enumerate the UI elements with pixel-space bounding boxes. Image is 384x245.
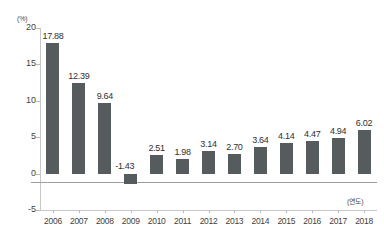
x-tick-mark [260, 210, 261, 213]
x-tick-label: 2018 [349, 216, 379, 226]
x-tick-mark [338, 210, 339, 213]
y-axis-unit-label: (%) [17, 15, 27, 22]
zero-line [31, 182, 377, 183]
x-tick-mark [79, 210, 80, 213]
x-tick-mark [131, 210, 132, 213]
x-tick-mark [234, 210, 235, 213]
bar [176, 159, 189, 173]
x-tick-mark [53, 210, 54, 213]
x-tick-mark [312, 210, 313, 213]
bar [124, 174, 137, 184]
y-tick-label: -5 [14, 204, 36, 214]
x-axis-unit-label: (연도) [347, 196, 364, 206]
y-tick-label: 0 [14, 168, 36, 178]
x-tick-mark [286, 210, 287, 213]
x-tick-mark [364, 210, 365, 213]
bar [72, 83, 85, 173]
bar [150, 155, 163, 173]
bar-value-label: 12.39 [62, 71, 96, 81]
bar [46, 43, 59, 173]
bar [202, 151, 215, 174]
y-tick-label: 20 [14, 22, 36, 32]
bar [254, 147, 267, 173]
bar-value-label: 6.02 [347, 118, 381, 128]
y-tick-label: 10 [14, 95, 36, 105]
x-tick-mark [157, 210, 158, 213]
bar [332, 138, 345, 174]
bar [358, 130, 371, 174]
bar [306, 141, 319, 174]
x-tick-mark [209, 210, 210, 213]
y-tick-label: 15 [14, 58, 36, 68]
x-tick-mark [183, 210, 184, 213]
bar-chart: (%) 20151050-5 17.8812.399.64-1.432.511.… [0, 0, 384, 245]
x-tick-mark [105, 210, 106, 213]
bar [228, 154, 241, 174]
y-tick-label: 5 [14, 131, 36, 141]
bar-value-label: 9.64 [88, 91, 122, 101]
bar-value-label: 17.88 [36, 31, 70, 41]
bar [280, 143, 293, 173]
bar-value-label: -1.43 [108, 161, 142, 171]
